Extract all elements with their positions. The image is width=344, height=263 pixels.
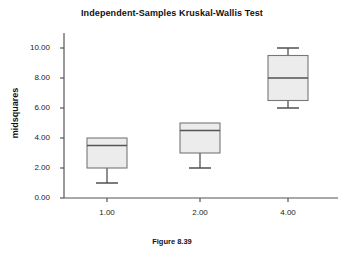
boxplot-group-4.00[interactable] [268,48,308,108]
box-iqr-rect[interactable] [180,123,220,153]
boxplot-group-1.00[interactable] [87,138,127,183]
boxplot-group-2.00[interactable] [180,123,220,168]
figure-root: Independent-Samples Kruskal-Wallis Test … [0,0,344,263]
figure-caption: Figure 8.39 [0,237,344,246]
plot-canvas [0,0,344,263]
boxplot-chart: midsquares 0.00 2.00 4.00 6.00 8.00 10.0… [0,0,344,263]
boxes-layer [87,48,308,183]
box-iqr-rect[interactable] [87,138,127,168]
